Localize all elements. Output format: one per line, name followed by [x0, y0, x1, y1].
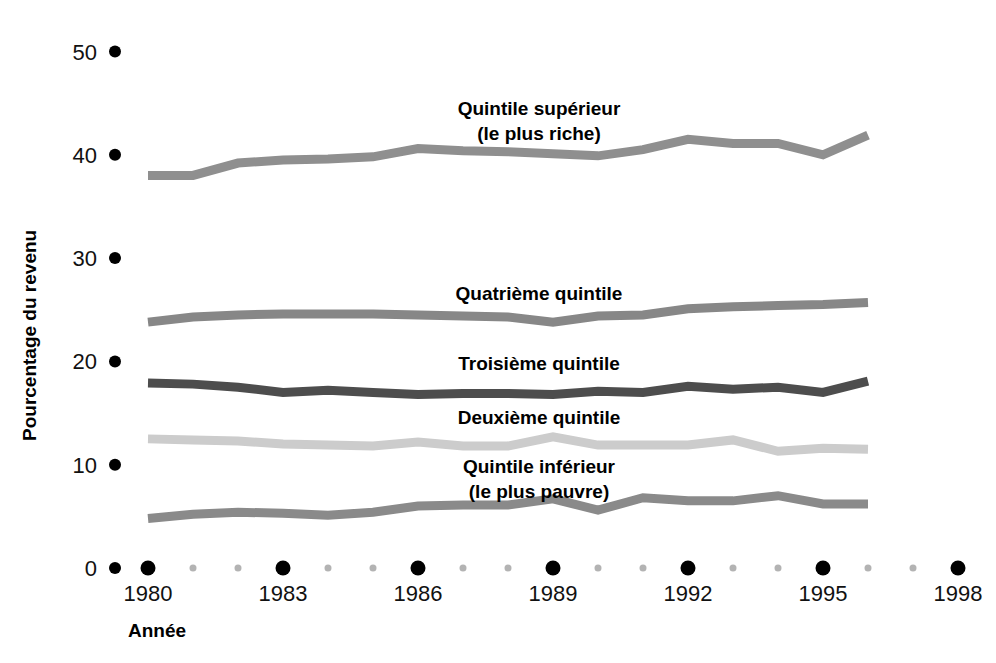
income-quintiles-line-chart: 01020304050 1980198319861989199219951998…: [0, 0, 996, 663]
x-tick-dot: [951, 561, 966, 576]
x-minor-tick-dot: [865, 565, 872, 572]
x-minor-tick-dot: [370, 565, 377, 572]
x-tick-dot: [546, 561, 561, 576]
y-tick-label: 30: [73, 246, 97, 271]
y-tick-label: 10: [73, 453, 97, 478]
x-tick-label: 1983: [259, 581, 308, 606]
y-axis-tick-labels: 01020304050: [73, 40, 97, 582]
x-tick-label: 1980: [124, 581, 173, 606]
x-tick-dot: [141, 561, 156, 576]
x-tick-label: 1995: [799, 581, 848, 606]
y-tick-dot: [109, 459, 121, 471]
x-minor-tick-dot: [235, 565, 242, 572]
x-minor-tick-dot: [730, 565, 737, 572]
series-label: Deuxième quintile: [458, 407, 621, 428]
y-axis-tick-dots: [109, 46, 121, 575]
x-minor-tick-dot: [775, 565, 782, 572]
y-tick-label: 50: [73, 40, 97, 65]
x-tick-dot: [681, 561, 696, 576]
x-axis-tick-labels: 1980198319861989199219951998: [124, 581, 983, 606]
x-minor-tick-dot: [505, 565, 512, 572]
series-label-sub: (le plus pauvre): [469, 481, 609, 502]
x-tick-label: 1986: [394, 581, 443, 606]
x-tick-dot: [816, 561, 831, 576]
series-label: Quatrième quintile: [456, 283, 623, 304]
x-tick-dot: [276, 561, 291, 576]
series-label: Troisième quintile: [458, 353, 620, 374]
x-minor-tick-dot: [325, 565, 332, 572]
series-label: Quintile supérieur: [458, 98, 621, 119]
series-line: [148, 381, 868, 394]
y-tick-dot: [109, 252, 121, 264]
x-tick-label: 1989: [529, 581, 578, 606]
series-line: [148, 437, 868, 451]
y-tick-label: 0: [85, 556, 97, 581]
x-axis-title: Année: [128, 620, 186, 641]
y-tick-label: 40: [73, 143, 97, 168]
x-minor-tick-dot: [910, 565, 917, 572]
y-tick-dot: [109, 562, 121, 574]
x-tick-dot: [411, 561, 426, 576]
y-tick-label: 20: [73, 349, 97, 374]
x-tick-label: 1998: [934, 581, 983, 606]
x-minor-tick-dot: [640, 565, 647, 572]
x-minor-tick-dot: [595, 565, 602, 572]
x-axis-major-dots: [141, 561, 966, 576]
series-label: Quintile inférieur: [463, 456, 616, 477]
y-axis-title: Pourcentage du revenu: [19, 230, 40, 441]
chart-container: 01020304050 1980198319861989199219951998…: [0, 0, 996, 663]
x-minor-tick-dot: [190, 565, 197, 572]
x-tick-label: 1992: [664, 581, 713, 606]
series-line: [148, 303, 868, 323]
y-tick-dot: [109, 149, 121, 161]
y-tick-dot: [109, 355, 121, 367]
x-minor-tick-dot: [460, 565, 467, 572]
y-tick-dot: [109, 46, 121, 58]
series-label-sub: (le plus riche): [477, 123, 601, 144]
